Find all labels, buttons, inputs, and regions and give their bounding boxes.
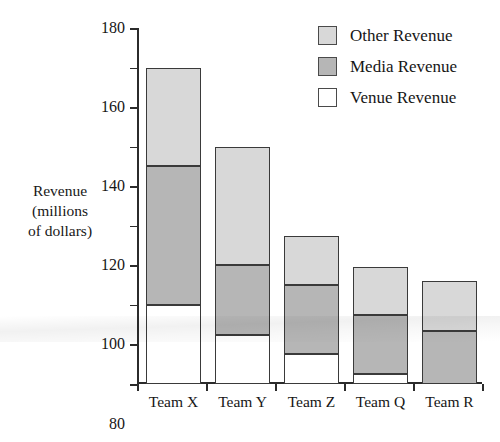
y-axis-tick: 20	[130, 344, 137, 346]
y-axis-tick-label: 140	[101, 177, 125, 195]
bar-segment-other-revenue[interactable]	[353, 267, 408, 314]
x-axis-tick	[137, 384, 139, 391]
y-axis-tick: 120	[130, 147, 137, 149]
y-axis-tick: 100	[130, 186, 137, 188]
x-axis-category-label: Team R	[425, 393, 473, 411]
bar-segment-venue-revenue[interactable]	[353, 374, 408, 384]
x-axis-tick	[206, 384, 208, 391]
legend-swatch-media-revenue	[318, 57, 337, 76]
legend-swatch-venue-revenue	[318, 88, 337, 107]
x-axis-tick	[344, 384, 346, 391]
y-axis-tick-label: 100	[101, 335, 125, 353]
bar-segment-venue-revenue[interactable]	[284, 354, 339, 384]
y-axis-tick-label: 160	[101, 98, 125, 116]
bar-group[interactable]: Team Y	[215, 28, 270, 384]
legend-swatch-other-revenue	[318, 26, 337, 45]
y-axis-tick-label: 80	[109, 415, 125, 433]
y-axis-tick: 140	[130, 107, 137, 109]
y-axis-tick: 40	[130, 305, 137, 307]
bar-segment-media-revenue[interactable]	[353, 315, 408, 374]
bar-segment-media-revenue[interactable]	[284, 285, 339, 354]
y-axis-tick-label: 180	[101, 19, 125, 37]
y-axis-tick: 80	[130, 226, 137, 228]
bar-segment-media-revenue[interactable]	[422, 331, 477, 384]
y-axis-line	[137, 28, 139, 384]
y-axis-title-line-1: Revenue	[8, 181, 112, 201]
x-axis-tick	[413, 384, 415, 391]
x-axis-tick	[275, 384, 277, 391]
stacked-bar-chart: Revenue (millions of dollars) 0204060801…	[0, 0, 500, 442]
legend-label-media-revenue: Media Revenue	[350, 57, 457, 77]
x-axis-category-label: Team X	[149, 393, 198, 411]
y-axis-tick: 160	[130, 68, 137, 70]
legend-item-media-revenue: Media Revenue	[318, 51, 457, 82]
y-axis-title-line-2: (millions	[8, 201, 112, 221]
x-axis-tick	[482, 384, 484, 391]
chart-legend: Other Revenue Media Revenue Venue Revenu…	[318, 20, 457, 113]
x-axis-category-label: Team Z	[288, 393, 336, 411]
bar-group[interactable]: Team X	[146, 28, 201, 384]
y-axis-tick: 180	[130, 28, 137, 30]
bar-segment-other-revenue[interactable]	[146, 68, 201, 167]
x-axis-category-label: Team Q	[356, 393, 405, 411]
bar-segment-other-revenue[interactable]	[284, 236, 339, 285]
legend-label-other-revenue: Other Revenue	[350, 26, 452, 46]
bar-segment-media-revenue[interactable]	[146, 166, 201, 304]
y-axis-title: Revenue (millions of dollars)	[8, 181, 112, 241]
legend-item-venue-revenue: Venue Revenue	[318, 82, 457, 113]
y-axis-tick-label: 120	[101, 256, 125, 274]
x-axis-category-label: Team Y	[218, 393, 267, 411]
legend-label-venue-revenue: Venue Revenue	[350, 88, 456, 108]
bar-segment-other-revenue[interactable]	[422, 281, 477, 330]
y-axis-tick: 0	[130, 384, 137, 386]
bar-segment-venue-revenue[interactable]	[215, 335, 270, 384]
bar-segment-media-revenue[interactable]	[215, 265, 270, 334]
bar-segment-other-revenue[interactable]	[215, 147, 270, 266]
y-axis-tick: 60	[130, 265, 137, 267]
bar-segment-venue-revenue[interactable]	[146, 305, 201, 384]
y-axis-title-line-3: of dollars)	[8, 221, 112, 241]
legend-item-other-revenue: Other Revenue	[318, 20, 457, 51]
